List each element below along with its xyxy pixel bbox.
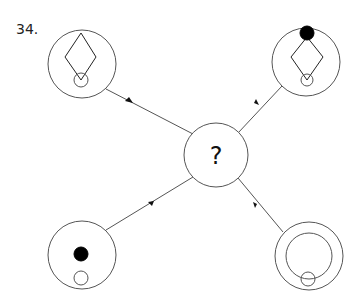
filled-dot	[74, 247, 88, 261]
diagram: ?	[0, 0, 355, 297]
node-top-left	[48, 30, 116, 98]
small-open-circle	[74, 271, 88, 285]
arrowhead-top-left	[125, 97, 133, 103]
arrowhead-top-right	[254, 99, 259, 105]
node-top-right	[272, 26, 340, 96]
node-bottom-left	[48, 221, 116, 289]
node-center: ?	[184, 123, 248, 187]
arrowhead-bottom-right	[253, 202, 257, 208]
connector-top-left	[106, 89, 193, 134]
node-bottom-right	[275, 222, 343, 290]
connector-top-right	[238, 86, 282, 133]
connector-bottom-right	[238, 178, 283, 232]
question-mark: ?	[210, 142, 223, 170]
filled-dot	[300, 26, 314, 40]
